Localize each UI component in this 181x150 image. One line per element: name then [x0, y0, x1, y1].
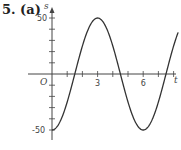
y-axis-label: s — [44, 1, 49, 11]
y-axis-arrow-icon — [50, 7, 55, 13]
origin-label: O — [40, 77, 48, 87]
x-tick-label: 6 — [141, 79, 146, 88]
y-tick-label: -50 — [32, 126, 45, 135]
x-tick-label: 3 — [95, 79, 100, 88]
x-axis-label: t — [174, 75, 178, 85]
y-tick-label: 50 — [37, 14, 47, 23]
sinusoid-chart: stO36-5050 — [0, 0, 181, 150]
